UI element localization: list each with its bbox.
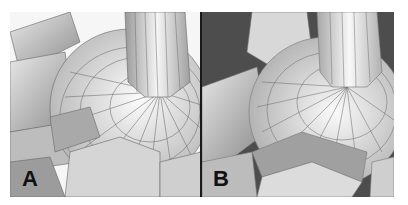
panel-label-b: B — [213, 168, 229, 190]
mesh-render-a — [10, 12, 201, 197]
mesh-render-panel-a — [10, 12, 201, 197]
mesh-render-panel-b — [202, 12, 394, 197]
mesh-render-b — [202, 12, 394, 197]
panel-label-a: A — [22, 168, 38, 190]
